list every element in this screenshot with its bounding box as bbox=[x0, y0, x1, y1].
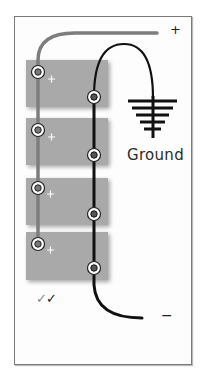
positive-terminal-1 bbox=[32, 66, 45, 79]
negative-output-label: − bbox=[161, 308, 173, 322]
check-icon: ✓ bbox=[46, 291, 56, 306]
negative-terminal-4 bbox=[88, 262, 101, 275]
ground-icon bbox=[128, 96, 177, 138]
ground-label: Ground bbox=[127, 148, 184, 163]
positive-terminal-4 bbox=[32, 238, 45, 251]
check-icon: ✓ bbox=[36, 291, 46, 306]
checkmarks: ✓✓ bbox=[36, 292, 56, 305]
wiring-diagram bbox=[0, 0, 202, 382]
negative-terminal-1 bbox=[88, 91, 101, 104]
positive-terminal-3 bbox=[32, 182, 45, 195]
negative-terminal-3 bbox=[88, 208, 101, 221]
negative-terminal-2 bbox=[88, 149, 101, 162]
positive-output-label: + bbox=[170, 23, 181, 36]
positive-terminal-2 bbox=[32, 124, 45, 137]
